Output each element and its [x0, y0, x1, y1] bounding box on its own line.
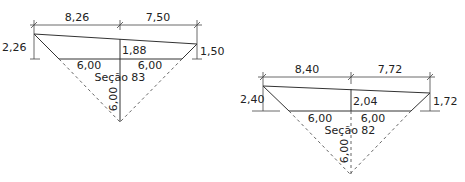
right-slope [182, 44, 197, 59]
center-height-label: 2,04 [353, 95, 378, 108]
top-right-width-label: 7,72 [378, 63, 403, 76]
left-slope [34, 34, 59, 59]
right-slope [411, 93, 430, 111]
center-height-label: 1,88 [122, 44, 147, 57]
cross-sections-diagram: 8,26 7,50 2,26 1,88 1,50 6,00 6,00 Seção… [0, 0, 465, 182]
depth-label: 6,00 [338, 139, 351, 164]
left-height-label: 2,40 [240, 93, 265, 106]
right-height-label: 1,50 [200, 45, 225, 58]
right-height-label: 1,72 [433, 95, 458, 108]
section-label: Seção 83 [95, 71, 146, 84]
section-label: Seção 82 [325, 124, 376, 137]
top-left-width-label: 8,26 [65, 11, 90, 24]
section-83: 8,26 7,50 2,26 1,88 1,50 6,00 6,00 Seção… [2, 11, 225, 122]
left-height-label: 2,26 [2, 41, 27, 54]
depth-label: 6,00 [107, 87, 120, 112]
top-right-width-label: 7,50 [146, 11, 171, 24]
section-82: 8,40 7,72 2,40 2,04 1,72 6,00 6,00 Seção… [240, 63, 458, 174]
left-slope [263, 86, 289, 111]
top-edge [263, 86, 430, 93]
top-left-width-label: 8,40 [295, 63, 320, 76]
top-edge [34, 34, 197, 44]
